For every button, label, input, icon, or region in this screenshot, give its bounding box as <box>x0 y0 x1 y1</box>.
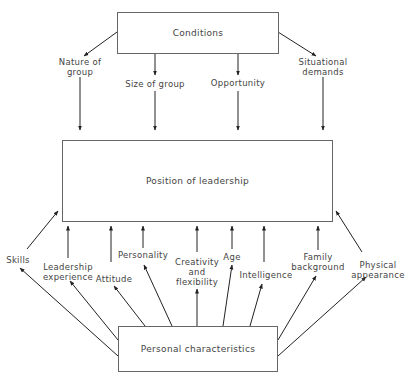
conditions-box: Conditions <box>117 12 279 54</box>
label-personality: Personality <box>118 250 168 260</box>
label-situational-demands: Situational demands <box>299 57 348 77</box>
label-leadership-experience: Leadership experience <box>43 262 93 282</box>
label-physical-appearance: Physical appearance <box>351 260 404 280</box>
label-creativity-and-flexibility: Creativity and flexibility <box>175 257 219 287</box>
label-opportunity: Opportunity <box>211 78 265 88</box>
label-nature-of-group: Nature of group <box>59 57 101 77</box>
label-attitude: Attitude <box>96 274 132 284</box>
label-size-of-group: Size of group <box>125 79 185 89</box>
label-family-background: Family background <box>291 252 344 272</box>
label-age: Age <box>223 252 240 262</box>
personal-characteristics-box: Personal characteristics <box>118 326 278 372</box>
label-skills: Skills <box>6 255 30 265</box>
label-intelligence: Intelligence <box>239 270 292 280</box>
position-of-leadership-box: Position of leadership <box>62 140 333 222</box>
